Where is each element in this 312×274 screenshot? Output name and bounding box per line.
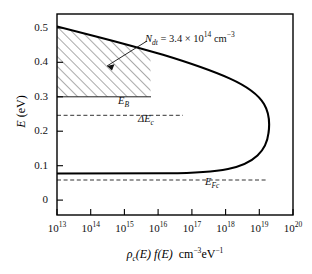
x-axis-title: ρc(E) f(E) cm−3eV−1 bbox=[56, 246, 294, 263]
x-tick-label-2: 1015 bbox=[106, 220, 142, 234]
annotation-units: cm bbox=[211, 33, 226, 44]
annotation-units-exponent: −3 bbox=[227, 30, 235, 39]
y-tick-label-2: 0.3 bbox=[16, 90, 48, 102]
y-tick-label-3: 0.2 bbox=[16, 124, 48, 136]
x-tick-label-7: 1020 bbox=[275, 220, 311, 234]
y-axis-title: E (eV) bbox=[14, 77, 29, 147]
x-axis-title-units-ev: eV bbox=[201, 247, 215, 261]
y-tick-label-0: 0.5 bbox=[16, 21, 48, 33]
carrier-density-annotation: Ndt = 3.4 × 1014 cm−3 bbox=[145, 30, 235, 47]
y-tick-label-1: 0.4 bbox=[16, 55, 48, 67]
x-axis-title-units-sup2: −1 bbox=[215, 246, 223, 255]
x-tick-label-5: 1018 bbox=[208, 220, 244, 234]
x-axis-title-units: cm bbox=[179, 247, 194, 261]
label-eb: EB bbox=[118, 95, 129, 109]
x-tick-label-3: 1016 bbox=[140, 220, 176, 234]
x-tick-label-1: 1014 bbox=[73, 220, 109, 234]
x-axis-title-mid: (E) f(E) bbox=[136, 247, 173, 261]
annotation-symbol: N bbox=[145, 33, 152, 44]
hatched-region bbox=[57, 27, 151, 97]
x-axis-ticks bbox=[57, 209, 293, 215]
annotation-equals: = 3.4 × 10 bbox=[158, 33, 204, 44]
x-tick-label-6: 1019 bbox=[241, 220, 277, 234]
x-tick-label-0: 1013 bbox=[39, 220, 75, 234]
y-tick-label-4: 0.1 bbox=[16, 159, 48, 171]
label-delta-ec: ΔEc bbox=[138, 113, 154, 127]
chart-figure: E (eV) 0.5 0.4 0.3 0.2 0.1 0 1013 1014 1… bbox=[0, 0, 312, 274]
x-tick-label-4: 1017 bbox=[174, 220, 210, 234]
y-tick-label-5: 0 bbox=[16, 193, 48, 205]
label-efc: EFc bbox=[205, 176, 219, 190]
